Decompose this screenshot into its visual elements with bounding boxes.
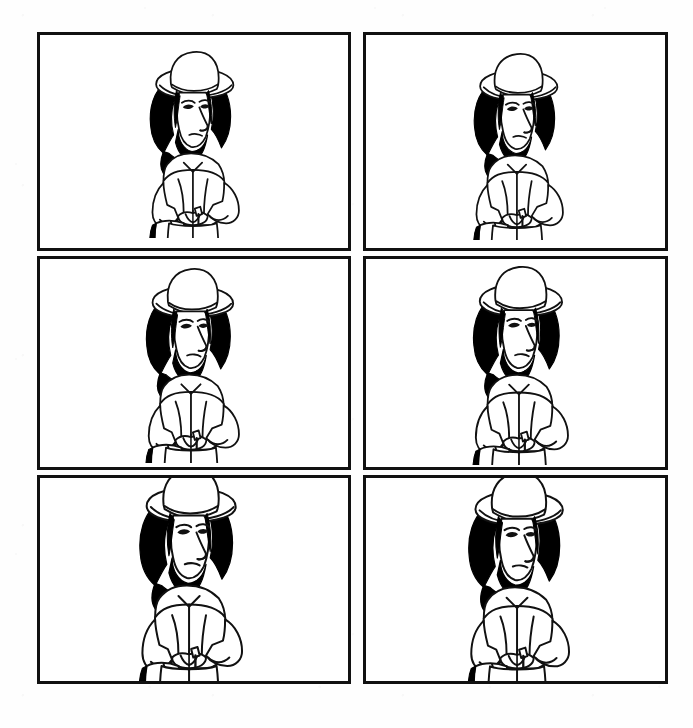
character-figure-hatted-bearded-man: [438, 475, 594, 683]
character-figure-hatted-bearded-man: [444, 257, 591, 465]
storyboard-panel-bottom-left[interactable]: [37, 475, 351, 684]
storyboard-panel-bottom-right[interactable]: [363, 475, 668, 684]
storyboard-panel-top-right[interactable]: [363, 32, 668, 251]
panel-grid: [37, 32, 668, 684]
character-figure-hatted-bearded-man: [123, 43, 261, 238]
storyboard-panel-top-left[interactable]: [37, 32, 351, 251]
character-figure-hatted-bearded-man: [118, 259, 262, 463]
storyboard-sheet: [0, 0, 693, 728]
character-figure-hatted-bearded-man: [109, 475, 268, 683]
storyboard-panel-middle-left[interactable]: [37, 256, 351, 470]
storyboard-panel-middle-right[interactable]: [363, 256, 668, 470]
character-figure-hatted-bearded-man: [447, 45, 585, 240]
